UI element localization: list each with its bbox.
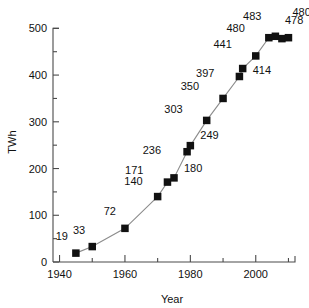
x-tick-label: 2000 [244, 268, 268, 280]
data-point-label: 441 [213, 38, 231, 50]
x-axis-title: Year [161, 293, 184, 305]
chart-figure: 01002003004005001940196019802000 1933721… [0, 0, 309, 308]
data-marker [121, 225, 129, 233]
data-marker [252, 52, 260, 60]
data-marker [219, 95, 227, 103]
data-marker [187, 142, 195, 150]
data-marker [265, 34, 273, 42]
x-tick-label: 1940 [47, 268, 71, 280]
data-marker [154, 193, 162, 201]
y-tick-label: 400 [29, 69, 47, 81]
data-point-label: 19 [56, 230, 68, 242]
data-point-label: 249 [200, 129, 218, 141]
y-tick-label: 300 [29, 116, 47, 128]
y-tick-label: 100 [29, 209, 47, 221]
data-marker [88, 243, 96, 251]
data-point-label: 480 [226, 22, 244, 34]
data-point-label: 397 [196, 67, 214, 79]
data-point-label: 480 [292, 6, 309, 18]
data-point-label: 140 [124, 175, 142, 187]
data-point-label: 303 [164, 103, 182, 115]
x-tick-label: 1980 [178, 268, 202, 280]
data-point-label: 236 [143, 144, 161, 156]
x-tick-label: 1960 [113, 268, 137, 280]
y-tick-label: 200 [29, 163, 47, 175]
data-marker [72, 249, 80, 257]
data-point-label: 350 [181, 80, 199, 92]
data-point-label: 180 [184, 162, 202, 174]
data-marker [203, 117, 211, 125]
data-point-label: 414 [253, 64, 271, 76]
data-marker [236, 73, 244, 81]
data-point-label: 171 [125, 164, 143, 176]
data-marker [285, 34, 293, 42]
data-marker [278, 35, 286, 43]
line-chart: 01002003004005001940196019802000 1933721… [0, 0, 309, 308]
x-axis-line [53, 256, 295, 262]
data-marker [164, 178, 172, 186]
data-point-label: 33 [73, 224, 85, 236]
y-axis-title: TWh [6, 130, 18, 153]
data-marker [170, 174, 178, 182]
data-point-label: 483 [243, 10, 261, 22]
y-tick-label: 500 [29, 22, 47, 34]
y-tick-label: 0 [41, 256, 47, 268]
data-marker [272, 33, 280, 41]
data-point-label: 72 [104, 205, 116, 217]
data-marker [239, 65, 247, 73]
